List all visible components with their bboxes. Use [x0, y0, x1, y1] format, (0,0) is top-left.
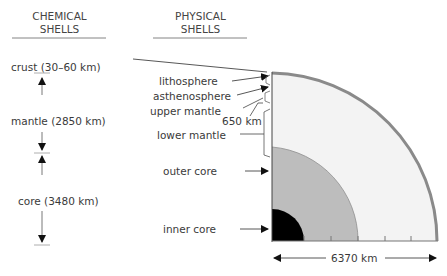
- label-crust: crust (30–60 km): [11, 61, 100, 73]
- label-650km: 650 km: [222, 115, 262, 127]
- lithosphere-arrow: [232, 76, 268, 81]
- lithosphere-bracket: [266, 75, 270, 85]
- label-upper-mantle: upper mantle: [150, 105, 221, 117]
- label-lithosphere: lithosphere: [159, 75, 218, 87]
- crust-leader-line: [133, 59, 267, 72]
- label-asthenosphere: asthenosphere: [153, 90, 231, 102]
- label-mantle: mantle (2850 km): [11, 115, 106, 127]
- label-lower-mantle: lower mantle: [157, 129, 226, 141]
- scale-label: 6370 km: [331, 252, 377, 264]
- label-outer-core: outer core: [163, 165, 217, 177]
- earth-quarter: [272, 72, 438, 242]
- label-core: core (3480 km): [18, 195, 99, 207]
- label-inner-core: inner core: [163, 223, 216, 235]
- lower-mantle-bracket: [264, 109, 270, 157]
- asthenosphere-arrow: [237, 87, 268, 95]
- chemical-shell-arrows: [34, 73, 50, 245]
- upper-mantle-bracket: [265, 91, 270, 103]
